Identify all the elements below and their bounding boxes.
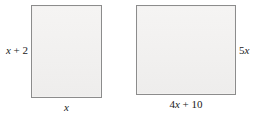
rectangle-a-width-label: x	[31, 101, 102, 113]
rectangle-a	[31, 5, 102, 98]
rectangle-b	[136, 5, 236, 95]
rectangle-b-height-label: 5x	[239, 44, 256, 56]
geometry-figure: x + 2 x 5x 4x + 10	[0, 0, 256, 117]
rectangle-a-height-label: x + 2	[0, 44, 28, 56]
rectangle-a-fill	[33, 7, 100, 96]
rectangle-b-fill	[138, 7, 234, 93]
rectangle-b-width-label: 4x + 10	[136, 98, 236, 110]
